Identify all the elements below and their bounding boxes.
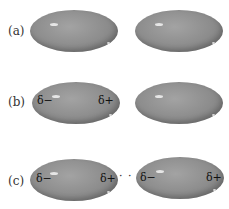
molecule-right-b xyxy=(135,82,223,124)
partial-positive-charge: δ+ xyxy=(98,94,114,107)
panel-label-a: (a) xyxy=(8,24,25,38)
partial-negative-charge: δ− xyxy=(140,171,156,184)
molecule-right-a xyxy=(135,10,223,52)
molecule-left-a xyxy=(30,10,118,52)
molecule-left-b: δ− δ+ xyxy=(32,82,120,124)
molecule-right-c: δ− δ+ xyxy=(136,157,224,199)
molecule-left-c: δ− δ+ xyxy=(30,159,118,201)
partial-positive-charge: δ+ xyxy=(206,171,222,184)
partial-negative-charge: δ− xyxy=(37,94,53,107)
panel-label-b: (b) xyxy=(8,95,25,109)
panel-label-c: (c) xyxy=(8,174,24,188)
partial-positive-charge: δ+ xyxy=(100,172,116,185)
partial-negative-charge: δ− xyxy=(36,172,52,185)
